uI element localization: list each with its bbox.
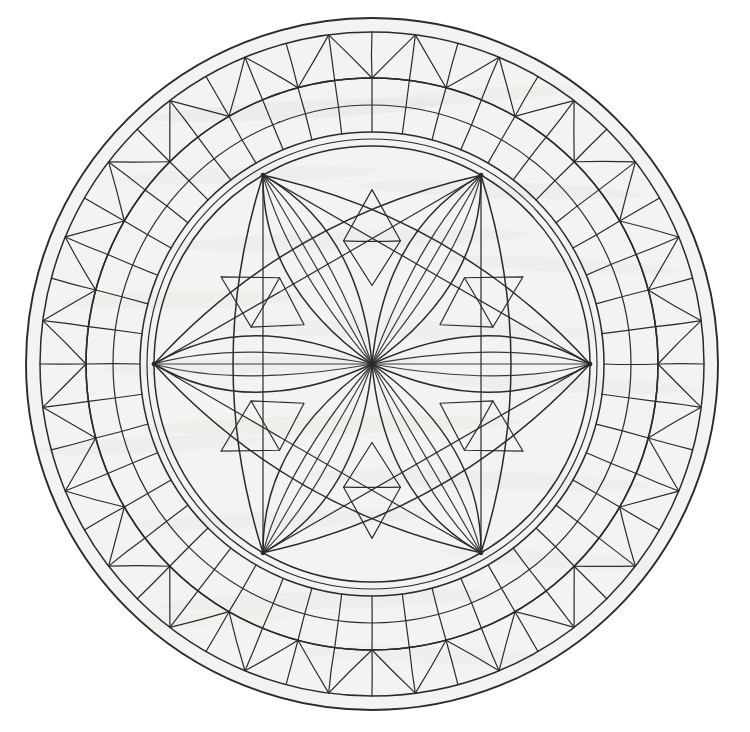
zigzag-rib	[371, 32, 372, 78]
zigzag-edge	[109, 566, 170, 567]
center-node	[369, 361, 375, 367]
drawing-canvas	[0, 0, 750, 732]
zigzag-edge	[574, 161, 635, 162]
mandala-artwork	[0, 0, 750, 732]
diamond-crossbar	[344, 241, 401, 242]
